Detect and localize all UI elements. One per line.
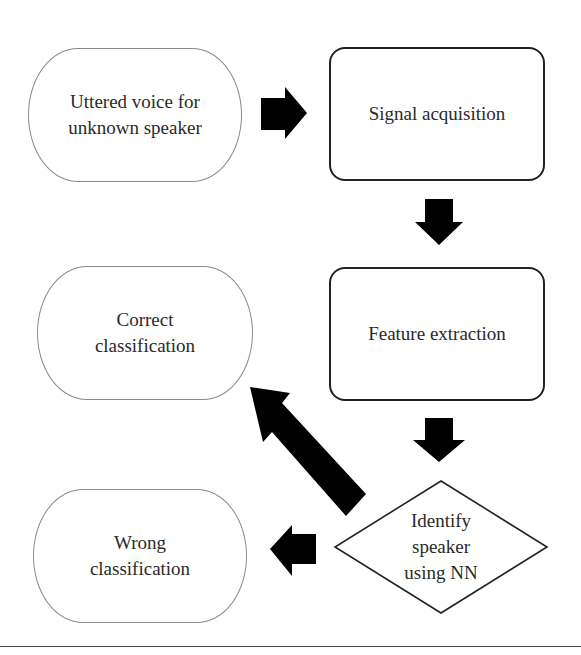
arrow-right-icon bbox=[261, 87, 307, 139]
node-identify-speaker: Identify speaker using NN bbox=[371, 505, 511, 589]
arrow-down-icon bbox=[415, 199, 463, 245]
node-identify-speaker-label: Identify speaker using NN bbox=[404, 508, 477, 586]
arrow-left-icon bbox=[270, 525, 316, 576]
bottom-divider bbox=[0, 646, 581, 647]
arrow-down-icon bbox=[413, 418, 465, 462]
arrow-up-left-icon bbox=[250, 387, 366, 516]
